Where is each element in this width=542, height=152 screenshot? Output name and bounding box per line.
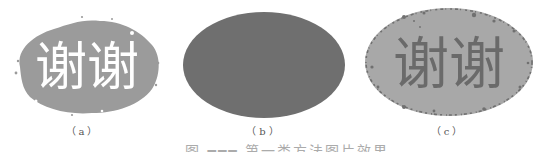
panel-b-image	[182, 11, 346, 119]
panel-a-image: 谢谢	[12, 15, 162, 117]
panel-a-characters: 谢谢	[35, 37, 139, 97]
panel-c-image: 谢谢	[364, 7, 534, 117]
panel-c-characters: 谢谢	[393, 31, 505, 96]
panel-a-label: （a）	[53, 123, 113, 138]
panel-c-label: （c）	[418, 123, 478, 138]
figure-caption: 图 ━━━ 第一类方法图片效果	[185, 140, 385, 152]
panel-b-label: （b）	[234, 123, 294, 138]
ellipse-mask	[182, 11, 346, 119]
blob-shape: 谢谢	[12, 15, 162, 117]
result-ellipse: 谢谢	[364, 7, 534, 117]
